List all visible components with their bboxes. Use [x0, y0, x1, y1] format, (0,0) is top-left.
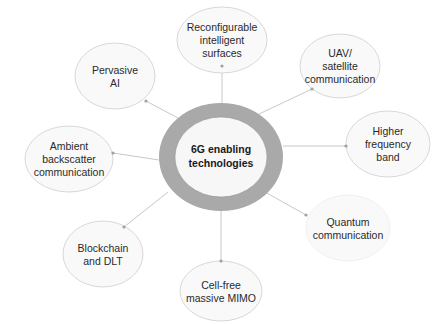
connector-ambient: [113, 153, 159, 160]
node-pervasive: PervasiveAI: [75, 43, 155, 109]
node-ris: Reconfigurableintelligentsurfaces: [177, 7, 267, 73]
connector-dot-ambient: [111, 151, 114, 154]
node-label-quantum-line-2: communication: [313, 229, 384, 241]
center-node: 6G enabling technologies: [159, 103, 283, 211]
node-label-hfb-line-1: Higher: [373, 125, 404, 137]
mind-map-diagram: 6G enabling technologies Reconfigurablei…: [0, 0, 441, 324]
node-label-hfb-line-2: frequency: [365, 138, 412, 150]
connector-blockchain: [124, 192, 168, 227]
node-cellfree: Cell-freemassive MIMO: [180, 259, 262, 321]
node-label-hfb-line-3: band: [376, 151, 400, 163]
node-label-uav-line-3: communication: [305, 73, 376, 85]
node-label-uav-line-2: satellite: [322, 60, 358, 72]
node-label-ris-line-1: Reconfigurable: [187, 21, 258, 33]
connector-dot-pervasive: [144, 99, 147, 102]
connector-uav: [259, 89, 312, 114]
node-label-cellfree-line-2: massive MIMO: [186, 292, 256, 304]
node-uav: UAV/satellitecommunication: [300, 34, 380, 98]
node-label-ris-line-3: surfaces: [202, 47, 242, 59]
node-label-blockchain-line-1: Blockchain: [78, 242, 129, 254]
node-label-blockchain-line-2: and DLT: [83, 255, 123, 267]
node-label-ambient-line-3: communication: [34, 166, 105, 178]
node-ambient: Ambientbackscattercommunication: [25, 126, 115, 192]
center-label-line-1: 6G enabling: [191, 143, 251, 155]
node-label-pervasive-line-2: AI: [110, 77, 120, 89]
connector-pervasive: [146, 101, 178, 118]
connector-dot-ris: [220, 64, 223, 67]
connector-dot-blockchain: [122, 225, 125, 228]
node-label-uav-line-1: UAV/: [328, 47, 352, 59]
node-quantum: Quantumcommunication: [304, 195, 390, 261]
node-label-cellfree-line-1: Cell-free: [201, 279, 241, 291]
connector-dot-uav: [310, 87, 313, 90]
node-blockchain: Blockchainand DLT: [63, 221, 143, 287]
connector-dot-hfb: [344, 144, 347, 147]
node-hfb: Higherfrequencyband: [344, 111, 430, 177]
node-label-ambient-line-1: Ambient: [50, 140, 89, 152]
node-label-pervasive-line-1: Pervasive: [92, 64, 138, 76]
connector-dot-cellfree: [219, 259, 222, 262]
connector-dot-quantum: [304, 213, 307, 216]
node-label-ambient-line-2: backscatter: [42, 153, 96, 165]
connector-quantum: [265, 192, 306, 215]
node-label-ris-line-2: intelligent: [200, 34, 244, 46]
node-label-quantum-line-1: Quantum: [326, 216, 369, 228]
center-label-line-2: technologies: [189, 157, 254, 169]
